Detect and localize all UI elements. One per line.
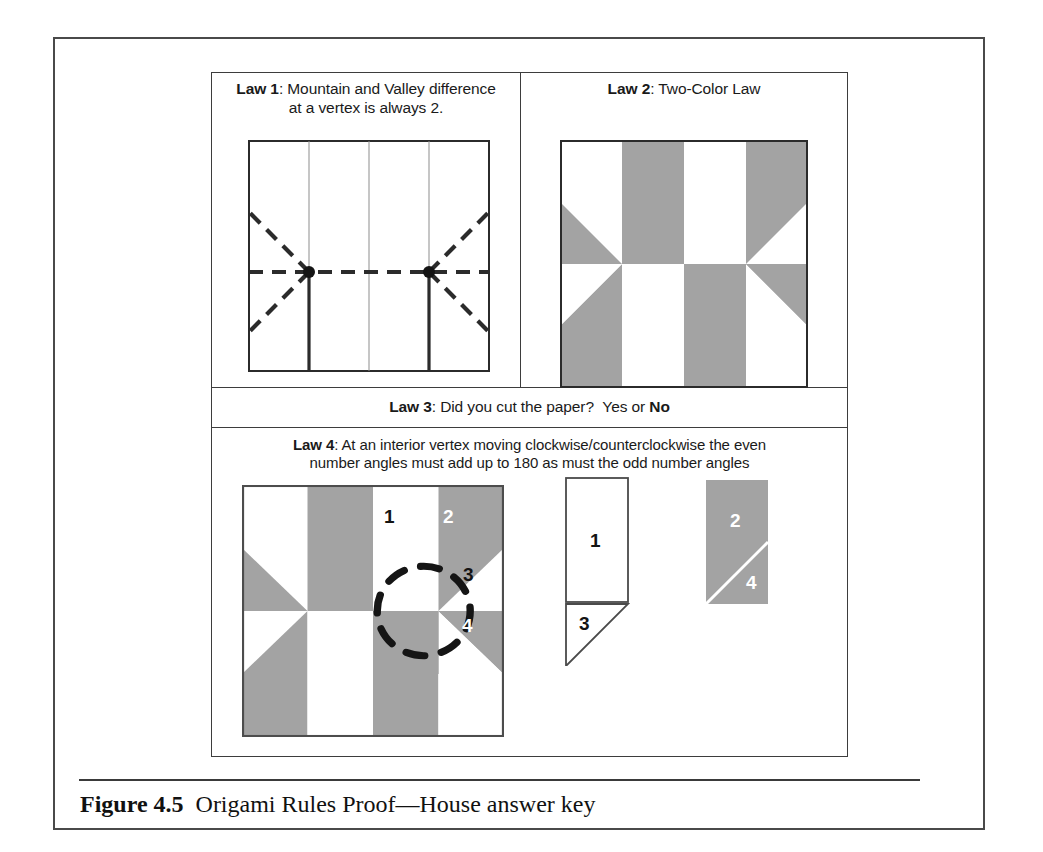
law-4-figure-a-label-3: 3 <box>579 614 590 633</box>
law-4-text-line2: number angles must add up to 180 as must… <box>310 454 750 471</box>
law-4-angle-label-4: 4 <box>462 616 473 635</box>
law-1-text-line2: at a vertex is always 2. <box>289 99 443 116</box>
law-2-tag: Law 2 <box>608 80 651 97</box>
law-3-tag: Law 3 <box>389 398 432 415</box>
law-3-sep: : <box>432 398 440 415</box>
law-4-heading: Law 4: At an interior vertex moving cloc… <box>212 428 847 473</box>
law-3-heading: Law 3: Did you cut the paper? Yes or No <box>212 388 847 417</box>
law-3-question: Did you cut the paper? <box>440 398 594 415</box>
law-4-two-color-diagram: 1 2 3 4 <box>242 485 504 737</box>
law-3-answer-prefix: Yes or <box>602 398 649 415</box>
figure-caption-label: Figure 4.5 <box>80 791 184 817</box>
law-4-angle-label-2: 2 <box>443 507 454 526</box>
law-1-text-line1: Mountain and Valley difference <box>287 80 495 97</box>
law-4-figure-b-label-4: 4 <box>746 573 757 592</box>
law-4-figure-a-label-1: 1 <box>590 531 601 550</box>
law-3-answer: No <box>649 398 669 415</box>
law-4-angle-label-3: 3 <box>463 565 474 584</box>
caption-divider <box>79 779 920 781</box>
law-4-angle-label-1: 1 <box>384 507 395 526</box>
law-1-tag: Law 1 <box>236 80 279 97</box>
figure-caption-text: Origami Rules Proof—House answer key <box>196 791 596 817</box>
law-2-text-line1: Two-Color Law <box>658 80 760 97</box>
page-frame: Law 1: Mountain and Valley difference at… <box>53 37 985 830</box>
figure-caption: Figure 4.5 Origami Rules Proof—House ans… <box>80 791 940 818</box>
law-1-panel: Law 1: Mountain and Valley difference at… <box>212 73 521 388</box>
law-2-panel: Law 2: Two-Color Law <box>521 73 847 388</box>
law-1-crease-diagram <box>248 140 490 372</box>
law-1-heading: Law 1: Mountain and Valley difference at… <box>212 73 520 118</box>
figure-box: Law 1: Mountain and Valley difference at… <box>211 72 848 757</box>
law-4-odd-angles-figure: 1 3 <box>557 476 667 666</box>
law-4-even-angles-figure: 2 4 <box>702 478 802 658</box>
law-4-text-line1: At an interior vertex moving clockwise/c… <box>341 436 766 453</box>
law-4-tag: Law 4 <box>293 436 334 453</box>
law-3-panel: Law 3: Did you cut the paper? Yes or No <box>212 388 847 428</box>
law-4-figure-b-label-2: 2 <box>730 511 741 530</box>
law-2-two-color-diagram <box>560 140 808 388</box>
law-4-panel: Law 4: At an interior vertex moving cloc… <box>212 428 847 755</box>
law-2-heading: Law 2: Two-Color Law <box>521 73 847 99</box>
